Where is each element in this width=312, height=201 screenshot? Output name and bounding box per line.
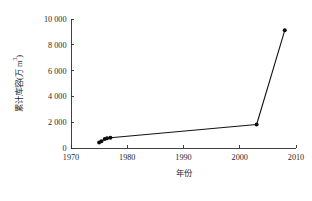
line-chart: 02 0004 0006 0008 00010 000 197019801990…	[0, 0, 312, 201]
data-point-marker	[108, 136, 112, 140]
x-tick-label: 1990	[175, 153, 191, 162]
x-tick-label: 1970	[63, 153, 79, 162]
y-tick-label: 6 000	[48, 67, 66, 76]
axis-lines	[71, 19, 296, 148]
y-axis-tick-labels: 02 0004 0006 0008 00010 000	[44, 15, 67, 153]
data-point-marker	[105, 136, 109, 140]
data-point-marker	[99, 139, 103, 143]
x-tick-label: 1980	[119, 153, 135, 162]
data-series	[97, 28, 287, 144]
x-axis-tick-labels: 19701980199020002010	[63, 153, 304, 162]
y-tick-label: 10 000	[44, 15, 67, 24]
tick-marks	[71, 19, 296, 148]
data-point-marker	[283, 28, 287, 32]
x-axis-title: 年份	[176, 168, 193, 178]
chart-figure: 02 0004 0006 0008 00010 000 197019801990…	[0, 0, 312, 201]
y-tick-label: 0	[62, 144, 66, 153]
data-point-marker	[255, 123, 259, 127]
y-tick-label: 4 000	[48, 92, 66, 101]
x-tick-label: 2000	[232, 153, 248, 162]
x-tick-label: 2010	[288, 153, 304, 162]
axis-titles: 年份累计库容(万 m3)	[12, 55, 193, 178]
y-tick-label: 8 000	[48, 41, 66, 50]
axes	[71, 19, 296, 148]
y-axis-title: 累计库容(万 m3)	[12, 55, 24, 112]
y-tick-label: 2 000	[48, 118, 66, 127]
